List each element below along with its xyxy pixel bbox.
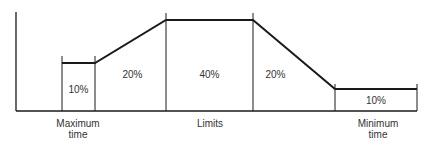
segment-label: 20% (253, 69, 298, 80)
segment-label: 10% (335, 95, 417, 106)
segment-label: 10% (62, 84, 95, 95)
segment-label: 40% (166, 69, 253, 80)
limits-label: Limits (180, 118, 240, 129)
minimum-time-label: Minimum time (352, 118, 404, 140)
maximum-time-label: Maximum time (52, 118, 104, 140)
segment-label: 20% (110, 69, 155, 80)
